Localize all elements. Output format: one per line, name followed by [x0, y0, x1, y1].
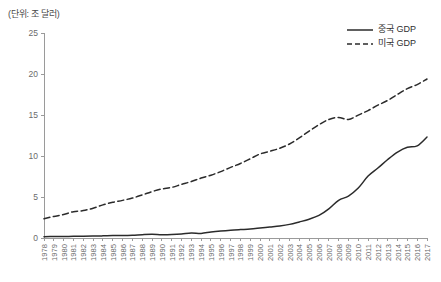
x-tick-label: 2015 — [403, 244, 412, 261]
x-tick-label: 1984 — [99, 244, 108, 261]
series-line-usa — [44, 79, 427, 219]
x-tick-label: 1987 — [128, 244, 137, 261]
x-tick-label: 1978 — [40, 244, 49, 261]
x-tick-label: 2010 — [354, 244, 363, 261]
series-line-china — [44, 137, 427, 237]
y-axis-tick-group: 0510152025 — [29, 28, 44, 243]
y-tick-label: 25 — [29, 28, 39, 38]
x-tick-label: 2014 — [394, 244, 403, 261]
x-tick-label: 2003 — [286, 244, 295, 261]
x-tick-label: 2017 — [423, 244, 432, 261]
x-tick-label: 1997 — [227, 244, 236, 261]
x-tick-label: 2013 — [384, 244, 393, 261]
legend-label-usa: 미국 GDP — [378, 38, 416, 48]
x-tick-label: 1989 — [148, 244, 157, 261]
y-tick-label: 5 — [33, 192, 38, 202]
x-tick-label: 1999 — [246, 244, 255, 261]
x-tick-label: 1979 — [50, 244, 59, 261]
x-tick-label: 1994 — [197, 244, 206, 261]
chart-plot-area: 0510152025 19781979198019811982198319841… — [0, 0, 441, 282]
x-tick-label: 1995 — [207, 244, 216, 261]
x-tick-label: 1982 — [79, 244, 88, 261]
y-tick-label: 10 — [29, 151, 39, 161]
x-tick-label: 1990 — [158, 244, 167, 261]
x-axis-tick-group: 1978197919801981198219831984198519861987… — [40, 238, 432, 261]
x-tick-label: 2009 — [344, 244, 353, 261]
x-tick-label: 2008 — [335, 244, 344, 261]
x-tick-label: 2005 — [305, 244, 314, 261]
x-tick-label: 2006 — [315, 244, 324, 261]
x-tick-label: 2007 — [325, 244, 334, 261]
x-tick-label: 2012 — [374, 244, 383, 261]
x-tick-label: 2011 — [364, 244, 373, 260]
y-tick-label: 15 — [29, 110, 39, 120]
x-tick-label: 2016 — [413, 244, 422, 261]
x-tick-label: 1988 — [138, 244, 147, 261]
legend-label-china: 중국 GDP — [378, 24, 416, 34]
data-series-group — [44, 79, 427, 237]
x-tick-label: 1981 — [69, 244, 78, 261]
x-tick-label: 1992 — [177, 244, 186, 261]
x-tick-label: 1986 — [119, 244, 128, 261]
x-tick-label: 2000 — [256, 244, 265, 261]
x-tick-label: 1980 — [60, 244, 69, 261]
x-tick-label: 2002 — [276, 244, 285, 261]
y-tick-label: 0 — [33, 233, 38, 243]
x-tick-label: 2001 — [266, 244, 275, 261]
gdp-comparison-chart: (단위: 조 달러) 0510152025 197819791980198119… — [0, 0, 441, 282]
x-tick-label: 1991 — [168, 244, 177, 261]
x-tick-label: 1996 — [217, 244, 226, 261]
x-tick-label: 1983 — [89, 244, 98, 261]
x-tick-label: 1993 — [187, 244, 196, 261]
chart-legend: 중국 GDP미국 GDP — [347, 24, 416, 48]
y-tick-label: 20 — [29, 69, 39, 79]
x-tick-label: 1998 — [236, 244, 245, 261]
x-tick-label: 1985 — [109, 244, 118, 261]
x-tick-label: 2004 — [295, 244, 304, 261]
